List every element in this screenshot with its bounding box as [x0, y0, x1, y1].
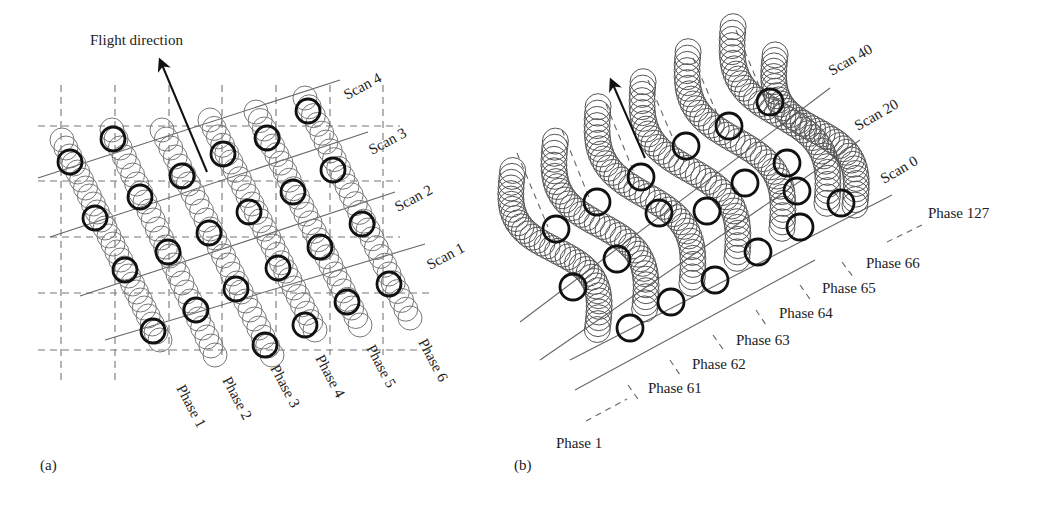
phase-1-label: Phase 1 — [173, 382, 209, 430]
panel-b: Scan 40 Scan 20 Scan 0 Phase 127 Phase 6… — [498, 14, 990, 474]
footprint-circle — [141, 208, 165, 232]
highlighted-footprint-circle — [658, 289, 684, 315]
scan-4-label: Scan 4 — [341, 69, 385, 102]
phase-leader — [842, 262, 854, 278]
phase-leader — [670, 360, 682, 378]
highlighted-footprint-circle — [617, 315, 643, 341]
footprint-circle — [585, 130, 611, 156]
scan-40-label: Scan 40 — [826, 41, 876, 79]
footprint-circle — [676, 223, 702, 249]
footprint-circle — [199, 334, 223, 358]
footprint-circle — [170, 271, 194, 295]
footprint-circle — [242, 307, 266, 331]
footprint-circle — [203, 343, 227, 367]
phase-127-label: Phase 127 — [928, 205, 990, 221]
footprint-circle — [117, 154, 141, 178]
scan-20-label: Scan 20 — [852, 96, 902, 134]
panel-b-label: (b) — [514, 457, 532, 474]
phase-61-label: Phase 61 — [648, 380, 702, 396]
phase-3-label: Phase 3 — [267, 362, 303, 410]
footprint-circle — [166, 262, 190, 286]
footprint-circle — [212, 244, 236, 268]
phase-66-label: Phase 66 — [866, 255, 920, 271]
footprint-circle — [500, 158, 526, 184]
footprint-circle — [762, 47, 788, 73]
footprint-circle — [761, 53, 787, 79]
scan-1-label: Scan 1 — [424, 240, 467, 273]
footprint-circle — [159, 136, 183, 160]
highlighted-footprint-circle — [584, 189, 610, 215]
footprint-circle — [176, 172, 200, 196]
footprint-circle — [541, 140, 567, 166]
footprint-circle — [675, 75, 701, 101]
panel-a-footprint-circles — [50, 86, 422, 367]
phase-leader — [800, 285, 812, 302]
phase-64-label: Phase 64 — [779, 305, 833, 321]
scan-3-label: Scan 3 — [366, 125, 409, 158]
flight-direction-arrow-icon — [611, 80, 645, 158]
phase-1-label: Phase 1 — [556, 435, 602, 451]
footprint-circle — [843, 181, 869, 207]
phase-6-label: Phase 6 — [415, 336, 451, 385]
highlighted-footprint-circle — [732, 170, 758, 196]
phase-leader — [628, 385, 640, 402]
footprint-circle — [121, 163, 145, 187]
footprint-circle — [238, 298, 262, 322]
highlighted-footprint-circle — [237, 200, 261, 224]
phase-leader — [756, 310, 768, 328]
phase-5-label: Phase 5 — [363, 342, 399, 390]
panel-a-label: (a) — [40, 457, 57, 474]
footprint-circle — [721, 198, 747, 224]
panel-b-footprint-circles — [498, 14, 870, 343]
footprint-circle — [632, 296, 658, 322]
flight-direction-arrow-icon — [160, 60, 207, 172]
highlighted-footprint-circle — [694, 198, 720, 224]
highlighted-footprint-circle — [377, 272, 401, 296]
footprint-circle — [586, 299, 612, 325]
footprint-circle — [216, 253, 240, 277]
scan-0-label: Scan 0 — [878, 153, 921, 187]
phase-63-label: Phase 63 — [736, 332, 790, 348]
phase-1-leader — [586, 399, 627, 421]
footprint-circle — [145, 217, 169, 241]
footprint-circle — [203, 226, 227, 250]
footprint-circle — [498, 175, 524, 201]
footprint-circle — [843, 165, 869, 191]
scan-2-label: Scan 2 — [392, 182, 435, 215]
footprint-circle — [195, 325, 219, 349]
phase-65-label: Phase 65 — [822, 280, 876, 296]
footprint-circle — [720, 50, 746, 76]
highlighted-footprint-circle — [702, 267, 728, 293]
phase-62-label: Phase 62 — [692, 356, 746, 372]
panel-a: Flight direction Scan 4 Scan 3 Scan 2 Sc… — [38, 32, 467, 474]
phase-2-label: Phase 2 — [219, 374, 255, 422]
highlighted-footprint-circle — [787, 214, 813, 240]
footprint-circle — [678, 86, 704, 112]
highlighted-footprint-circle — [113, 258, 137, 282]
phase-4-label: Phase 4 — [312, 352, 348, 401]
footprint-circle — [723, 61, 749, 87]
footprint-circle — [588, 141, 614, 167]
figure-canvas: Flight direction Scan 4 Scan 3 Scan 2 Sc… — [0, 0, 1041, 510]
flight-direction-label: Flight direction — [90, 32, 183, 48]
footprint-circle — [149, 226, 173, 250]
phase-127-leader — [887, 225, 922, 242]
footprint-circle — [632, 290, 658, 316]
footprint-circle — [585, 311, 611, 337]
footprint-circle — [190, 199, 214, 223]
footprint-circle — [719, 39, 745, 65]
highlighted-footprint-circle — [296, 99, 320, 123]
phase-leader — [713, 335, 725, 352]
footprint-circle — [542, 128, 568, 154]
footprint-circle — [630, 105, 656, 131]
footprint-circle — [220, 262, 244, 286]
footprint-circle — [674, 64, 700, 90]
footprint-circle — [584, 119, 610, 145]
footprint-circle — [629, 94, 655, 120]
footprint-circle — [133, 190, 157, 214]
footprint-circle — [185, 190, 209, 214]
highlighted-footprint-circle — [255, 126, 279, 150]
footprint-circle — [174, 280, 198, 304]
footprint-circle — [112, 145, 136, 169]
footprint-circle — [150, 118, 174, 142]
